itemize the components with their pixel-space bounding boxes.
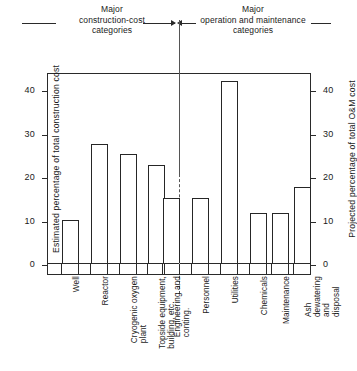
x-axis-category-labels: WellReactorCryogenic oxygen plantTopside… bbox=[47, 276, 311, 371]
group-label-construction: Major construction-cost categories bbox=[46, 4, 178, 44]
bar-engineering-and-conting bbox=[163, 198, 180, 263]
y-ticklabel-left-20: 20 bbox=[13, 173, 35, 182]
y-ticklabel-left-30: 30 bbox=[13, 130, 35, 139]
category-label-ash-dewatering-and-disposal: Ash dewatering and disposal bbox=[304, 276, 341, 317]
group-label-om-text: Major operation and maintenance categori… bbox=[178, 4, 328, 36]
x-tick bbox=[237, 264, 238, 274]
x-tick bbox=[107, 264, 108, 274]
x-tick bbox=[162, 264, 163, 274]
y-ticklabel-left-40: 40 bbox=[13, 86, 35, 95]
y-ticklabel-right-10: 10 bbox=[323, 217, 345, 226]
x-tick bbox=[119, 264, 120, 274]
x-tick bbox=[164, 264, 165, 274]
y-tick-right-10 bbox=[310, 222, 316, 223]
y-tick-left-20 bbox=[42, 178, 48, 179]
bar-maintenance bbox=[272, 213, 289, 263]
bar-ash-dewatering-and-disposal bbox=[294, 187, 311, 263]
x-tick bbox=[310, 264, 311, 274]
category-label-personnel: Personnel bbox=[202, 276, 211, 314]
x-tick bbox=[266, 264, 267, 274]
x-tick bbox=[293, 264, 294, 274]
x-tick bbox=[90, 264, 91, 274]
y-axis-right-title: Projected percentage of total O&M cost bbox=[347, 0, 357, 319]
y-ticklabel-right-30: 30 bbox=[323, 130, 345, 139]
x-tick bbox=[61, 264, 62, 274]
bar-well bbox=[62, 220, 79, 263]
category-label-well: Well bbox=[72, 276, 81, 292]
y-ticklabel-right-40: 40 bbox=[323, 86, 345, 95]
y-tick-right-20 bbox=[310, 178, 316, 179]
bar-personnel bbox=[192, 198, 209, 263]
bar-series bbox=[48, 74, 310, 263]
y-tick-left-40 bbox=[42, 91, 48, 92]
category-label-chemicals: Chemicals bbox=[260, 276, 269, 315]
x-tick bbox=[179, 264, 180, 274]
x-tick bbox=[288, 264, 289, 274]
bar-cryogenic-oxygen-plant bbox=[120, 154, 137, 263]
y-tick-left-30 bbox=[42, 135, 48, 136]
group-label-construction-text: Major construction-cost categories bbox=[46, 4, 178, 36]
x-tick bbox=[191, 264, 192, 274]
x-tick bbox=[47, 264, 48, 274]
y-tick-right-40 bbox=[310, 91, 316, 92]
bar-chemicals bbox=[250, 213, 267, 263]
y-ticklabel-right-20: 20 bbox=[323, 173, 345, 182]
category-label-engineering-and-conting: Engineering and conting. bbox=[173, 276, 191, 337]
category-label-reactor: Reactor bbox=[101, 276, 110, 305]
x-tick bbox=[220, 264, 221, 274]
category-label-utilities: Utilities bbox=[231, 276, 240, 303]
bar-utilities bbox=[221, 81, 238, 263]
y-ticklabel-right-0: 0 bbox=[323, 260, 345, 269]
x-tick bbox=[78, 264, 79, 274]
plot-area: 010203040 010203040 Estimated percentage… bbox=[47, 73, 311, 264]
x-tick bbox=[271, 264, 272, 274]
x-axis-baseline bbox=[47, 274, 311, 275]
x-tick bbox=[208, 264, 209, 274]
y-tick-left-10 bbox=[42, 222, 48, 223]
y-ticklabel-left-0: 0 bbox=[13, 260, 35, 269]
x-tick bbox=[136, 264, 137, 274]
y-ticklabel-left-10: 10 bbox=[13, 217, 35, 226]
x-tick bbox=[249, 264, 250, 274]
category-label-maintenance: Maintenance bbox=[282, 276, 291, 324]
bar-reactor bbox=[91, 144, 108, 263]
group-label-om: Major operation and maintenance categori… bbox=[178, 4, 328, 44]
x-tick bbox=[147, 264, 148, 274]
x-axis-ticks bbox=[47, 264, 311, 274]
y-tick-right-30 bbox=[310, 135, 316, 136]
category-label-cryogenic-oxygen-plant: Cryogenic oxygen plant bbox=[130, 276, 148, 343]
